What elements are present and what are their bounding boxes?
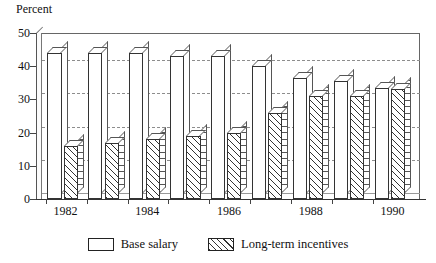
bar-front-face — [88, 53, 102, 199]
y-axis-wall — [36, 33, 42, 199]
x-tick-mark — [128, 199, 129, 204]
y-tick-label: 50 — [4, 27, 30, 39]
bar-front-face — [146, 139, 160, 199]
x-tick-mark — [209, 199, 210, 204]
bar-base-salary-1987 — [252, 66, 266, 199]
y-tick-mark — [30, 166, 36, 167]
x-tick-label: 1984 — [115, 205, 180, 218]
bar-side-face — [282, 101, 288, 193]
legend-item: Base salary — [88, 237, 178, 251]
y-tick-label: 20 — [4, 127, 30, 139]
y-axis-ticks: 01020304050 — [0, 0, 30, 263]
plot-frame-right — [419, 33, 420, 199]
bar-front-face — [186, 136, 200, 199]
y-tick-mark — [30, 133, 36, 134]
bar-front-face — [252, 66, 266, 199]
hatched-box-icon — [208, 238, 234, 251]
bar-side-face — [405, 77, 411, 193]
bar-base-salary-1989 — [334, 81, 348, 199]
plot-frame-top — [42, 33, 420, 34]
bar-front-face — [268, 113, 282, 199]
bar-base-salary-1983 — [88, 53, 102, 199]
bar-long-term-incentives-1987 — [268, 113, 282, 199]
bar-base-salary-1982 — [47, 53, 61, 199]
bar-front-face — [334, 81, 348, 199]
bar-long-term-incentives-1990 — [391, 89, 405, 199]
bar-long-term-incentives-1989 — [350, 96, 364, 199]
y-tick-label: 40 — [4, 60, 30, 72]
bar-long-term-incentives-1983 — [105, 143, 119, 199]
bar-long-term-incentives-1984 — [146, 139, 160, 199]
legend-label: Long-term incentives — [241, 237, 348, 251]
x-tick-mark — [250, 199, 251, 204]
chart-legend: Base salaryLong-term incentives — [0, 232, 436, 256]
bar-front-face — [64, 146, 78, 199]
bar-side-face — [364, 84, 370, 193]
bar-front-face — [105, 143, 119, 199]
bar-front-face — [350, 96, 364, 199]
bar-base-salary-1986 — [211, 56, 225, 199]
x-tick-label: 1990 — [360, 205, 425, 218]
x-tick-mark — [332, 199, 333, 204]
bar-base-salary-1984 — [129, 53, 143, 199]
bar-front-face — [170, 56, 184, 199]
bar-front-face — [293, 78, 307, 199]
bar-front-face — [47, 53, 61, 199]
percent-bar-chart: Percent 01020304050 19821984198619881990… — [0, 0, 436, 263]
legend-item: Long-term incentives — [208, 237, 348, 251]
x-axis-baseline — [36, 199, 426, 200]
y-tick-mark — [30, 33, 36, 34]
x-tick-mark — [46, 199, 47, 204]
bar-front-face — [391, 89, 405, 199]
y-tick-mark — [30, 99, 36, 100]
x-tick-mark — [168, 199, 169, 204]
white-box-icon — [88, 238, 114, 251]
y-tick-label: 30 — [4, 93, 30, 105]
x-tick-label: 1982 — [33, 205, 98, 218]
bar-side-face — [323, 84, 329, 193]
x-tick-label: 1988 — [278, 205, 343, 218]
bar-front-face — [375, 88, 389, 199]
x-tick-mark — [291, 199, 292, 204]
x-tick-mark — [373, 199, 374, 204]
y-tick-label: 0 — [4, 193, 30, 205]
bar-front-face — [227, 133, 241, 199]
bar-base-salary-1990 — [375, 88, 389, 199]
bar-long-term-incentives-1986 — [227, 133, 241, 199]
bar-front-face — [309, 96, 323, 199]
bar-long-term-incentives-1982 — [64, 146, 78, 199]
y-tick-mark — [30, 66, 36, 67]
bar-front-face — [211, 56, 225, 199]
bar-base-salary-1985 — [170, 56, 184, 199]
x-tick-label: 1986 — [196, 205, 261, 218]
y-tick-label: 10 — [4, 160, 30, 172]
bar-long-term-incentives-1985 — [186, 136, 200, 199]
bar-long-term-incentives-1988 — [309, 96, 323, 199]
legend-label: Base salary — [121, 237, 178, 251]
bar-front-face — [129, 53, 143, 199]
bar-base-salary-1988 — [293, 78, 307, 199]
x-tick-mark — [87, 199, 88, 204]
